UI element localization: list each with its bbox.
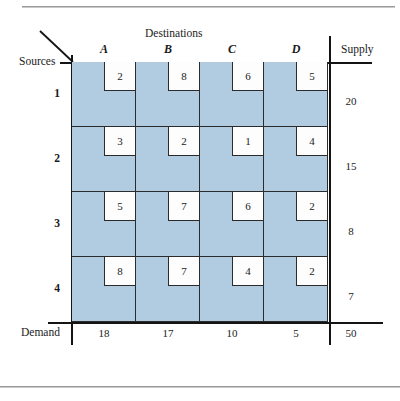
cell-2-B[interactable]: 2 bbox=[136, 127, 200, 192]
cost-value-2-A: 3 bbox=[104, 127, 135, 156]
cell-1-D[interactable]: 5 bbox=[264, 62, 328, 127]
supply-column-title: Supply bbox=[341, 44, 374, 56]
column-header-A: A bbox=[72, 42, 136, 57]
cost-value-1-C: 6 bbox=[232, 62, 263, 91]
row-header-2: 2 bbox=[48, 152, 66, 164]
cell-4-D[interactable]: 2 bbox=[264, 257, 328, 322]
figure-top-rule bbox=[22, 6, 395, 8]
cost-value-4-D: 2 bbox=[296, 257, 327, 286]
cell-1-A[interactable]: 2 bbox=[72, 62, 136, 127]
cost-value-1-A: 2 bbox=[104, 62, 135, 91]
cell-4-A[interactable]: 8 bbox=[72, 257, 136, 322]
demand-row-title: Demand bbox=[21, 327, 60, 339]
total-value: 50 bbox=[336, 327, 366, 339]
supply-value-3: 8 bbox=[338, 225, 364, 237]
cost-value-2-B: 2 bbox=[168, 127, 199, 156]
cell-3-A[interactable]: 5 bbox=[72, 192, 136, 257]
cell-3-C[interactable]: 6 bbox=[200, 192, 264, 257]
supply-value-2: 15 bbox=[338, 160, 364, 172]
cost-value-4-B: 7 bbox=[168, 257, 199, 286]
cost-value-3-A: 5 bbox=[104, 192, 135, 221]
demand-value-B: 17 bbox=[136, 327, 200, 339]
column-header-D: D bbox=[264, 42, 328, 57]
column-header-C: C bbox=[200, 42, 264, 57]
cell-3-B[interactable]: 7 bbox=[136, 192, 200, 257]
destinations-axis-title: Destinations bbox=[145, 28, 203, 40]
row-header-4: 4 bbox=[48, 282, 66, 294]
cost-value-1-D: 5 bbox=[296, 62, 327, 91]
cost-value-1-B: 8 bbox=[168, 62, 199, 91]
cost-value-3-B: 7 bbox=[168, 192, 199, 221]
cost-value-4-A: 8 bbox=[104, 257, 135, 286]
cell-1-B[interactable]: 8 bbox=[136, 62, 200, 127]
demand-value-A: 18 bbox=[72, 327, 136, 339]
cell-2-C[interactable]: 1 bbox=[200, 127, 264, 192]
cost-value-4-C: 4 bbox=[232, 257, 263, 286]
cell-2-D[interactable]: 4 bbox=[264, 127, 328, 192]
row-header-3: 3 bbox=[48, 217, 66, 229]
supply-value-4: 7 bbox=[338, 290, 364, 302]
figure-bottom-rule bbox=[0, 386, 400, 388]
grid-right-border bbox=[329, 36, 331, 345]
cell-2-A[interactable]: 3 bbox=[72, 127, 136, 192]
demand-overline bbox=[48, 322, 383, 324]
transportation-tableau-figure: Destinations Supply Sources Demand A B C… bbox=[0, 0, 400, 401]
cell-1-C[interactable]: 6 bbox=[200, 62, 264, 127]
cost-value-2-D: 4 bbox=[296, 127, 327, 156]
cost-value-3-D: 2 bbox=[296, 192, 327, 221]
demand-value-D: 5 bbox=[264, 327, 328, 339]
cost-value-2-C: 1 bbox=[232, 127, 263, 156]
cost-value-3-C: 6 bbox=[232, 192, 263, 221]
sources-axis-title: Sources bbox=[19, 56, 55, 68]
supply-value-1: 20 bbox=[338, 95, 364, 107]
column-header-B: B bbox=[136, 42, 200, 57]
cell-4-B[interactable]: 7 bbox=[136, 257, 200, 322]
cell-4-C[interactable]: 4 bbox=[200, 257, 264, 322]
demand-value-C: 10 bbox=[200, 327, 264, 339]
cell-3-D[interactable]: 2 bbox=[264, 192, 328, 257]
row-header-1: 1 bbox=[48, 87, 66, 99]
